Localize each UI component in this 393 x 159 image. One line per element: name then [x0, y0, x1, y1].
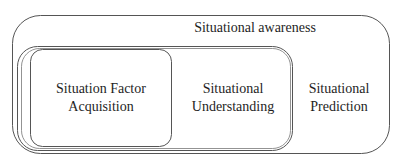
label-line-2: Prediction — [294, 98, 384, 116]
situational-prediction-label: Situational Prediction — [294, 80, 384, 116]
situational-awareness-label: Situational awareness — [170, 19, 340, 37]
label-line-1: Situational — [294, 80, 384, 98]
label-line-1: Situation Factor — [31, 80, 171, 98]
situational-understanding-label: Situational Understanding — [178, 80, 288, 116]
label-text: Situational awareness — [194, 20, 316, 35]
label-line-2: Understanding — [178, 98, 288, 116]
situation-factor-acquisition-label: Situation Factor Acquisition — [31, 80, 171, 116]
label-line-1: Situational — [178, 80, 288, 98]
label-line-2: Acquisition — [31, 98, 171, 116]
